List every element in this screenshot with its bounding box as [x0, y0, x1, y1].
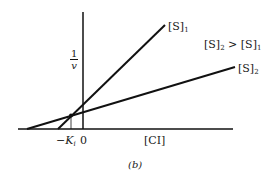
x-axis-label: [CI]: [144, 134, 165, 147]
label-s2-text: [S]: [238, 62, 254, 75]
label-relation: [S]2 > [S]1: [204, 38, 261, 52]
line-s2: [27, 67, 235, 129]
origin-label: 0: [80, 134, 87, 147]
dixon-plot: [0, 0, 273, 180]
rel-a: [S]: [204, 38, 220, 51]
intersection-point: [69, 114, 73, 118]
ki-text: −K: [56, 134, 73, 147]
label-s2-sub: 2: [254, 68, 258, 76]
caption: (b): [128, 159, 142, 170]
label-s1: [S]1: [168, 20, 189, 34]
label-s1-text: [S]: [168, 20, 184, 33]
rel-b: [S]: [241, 38, 257, 51]
rel-op: >: [225, 38, 241, 51]
y-label-num: 1: [70, 48, 78, 60]
y-axis-label: 1 v: [70, 48, 78, 71]
label-s1-sub: 1: [184, 26, 188, 34]
line-s1: [58, 25, 165, 129]
rel-b-sub: 1: [257, 44, 261, 52]
ki-sub: i: [73, 140, 75, 148]
label-s2: [S]2: [238, 62, 259, 76]
y-label-den: v: [70, 60, 78, 71]
ki-label: −Ki: [56, 134, 76, 148]
